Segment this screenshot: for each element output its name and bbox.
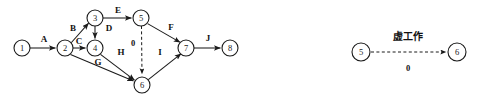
node-6: 6 (134, 77, 150, 93)
node-label: 3 (93, 13, 97, 23)
edge-dummy-zero (142, 26, 143, 75)
node-label: 5 (359, 47, 363, 57)
node-8: 8 (222, 40, 238, 56)
edge-G (71, 55, 134, 82)
edge-label-I: I (158, 47, 162, 57)
node-label: 6 (140, 80, 144, 90)
network-diagram-svg: 1 2 3 4 5 6 7 (0, 0, 478, 108)
main-diagram-nodes: 1 2 3 4 5 6 7 (14, 10, 238, 93)
edge-H (101, 54, 135, 80)
dummy-node-6: 6 (448, 43, 466, 61)
dummy-activity-diagram: 5 6 虚工作 0 (352, 30, 466, 74)
edge-label-E: E (115, 5, 121, 15)
edge-label-H: H (117, 47, 124, 57)
node-7: 7 (178, 40, 194, 56)
edge-label-dummy-zero: 0 (131, 38, 135, 48)
node-label: 8 (228, 43, 232, 53)
dummy-activity-duration: 0 (406, 63, 410, 73)
main-diagram-edge-labels: A B C D E F G H I J 0 (41, 5, 211, 67)
node-label: 7 (184, 43, 188, 53)
edge-label-A: A (41, 34, 48, 44)
node-2: 2 (57, 40, 73, 56)
diagram-canvas: 1 2 3 4 5 6 7 (0, 0, 478, 108)
edge-label-D: D (106, 23, 113, 33)
node-label: 6 (455, 47, 459, 57)
node-label: 1 (20, 43, 24, 53)
edge-F (148, 24, 181, 43)
dummy-activity-caption: 虚工作 (393, 30, 423, 42)
edge-label-B: B (70, 23, 76, 33)
node-5: 5 (133, 10, 149, 26)
node-4: 4 (87, 40, 103, 56)
node-label: 2 (63, 43, 67, 53)
edge-label-J: J (206, 33, 211, 43)
node-1: 1 (14, 40, 30, 56)
edge-label-G: G (94, 57, 101, 67)
edge-I (148, 54, 181, 80)
edge-label-C: C (76, 36, 83, 46)
node-3: 3 (87, 10, 103, 26)
dummy-node-5: 5 (352, 43, 370, 61)
node-label: 5 (139, 13, 143, 23)
edge-label-F: F (168, 22, 174, 32)
